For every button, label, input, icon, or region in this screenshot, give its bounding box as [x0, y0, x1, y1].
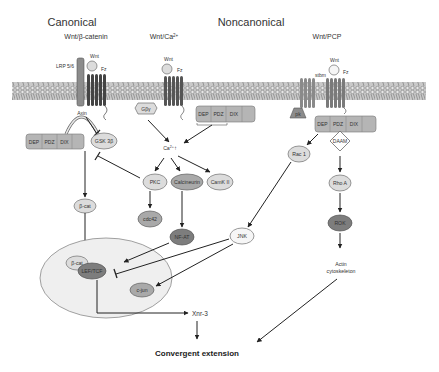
cdc42-label: cdc42: [143, 216, 157, 222]
axin-inhibits-gsk-edge: [86, 117, 97, 134]
jnk-label: JNK: [237, 233, 247, 239]
nfat-label: NF-AT: [175, 234, 191, 240]
wnt-label-ca: Wnt: [164, 56, 174, 62]
noncanonical-heading: Noncanonical: [218, 16, 285, 28]
dep-domain-label: DEP: [198, 111, 209, 117]
g-beta-gamma-label: Gβγ: [141, 106, 151, 112]
pdz-domain-label: PDZ: [214, 111, 224, 117]
wnt-signaling-diagram: Canonical Noncanonical Wnt/β-catenin Wnt…: [0, 0, 439, 372]
xnr3-label: Xnr-3: [192, 310, 208, 317]
dep-domain-label: DEP: [29, 139, 40, 145]
dishevelled-pcp: DEP PDZ DIX: [315, 116, 376, 132]
calcineurin-label: Calcineurin: [174, 179, 200, 185]
dvl-to-rac1-edge: [307, 134, 318, 145]
pathway-label-pcp: Wnt/PCP: [313, 33, 342, 40]
ca-to-camk2-edge: [178, 156, 210, 172]
pkc-label: PKC: [150, 179, 161, 185]
c-jun-label: c-jun: [136, 287, 147, 293]
pk-label: pk: [295, 111, 301, 117]
calcium-label: Ca2+↑: [163, 145, 177, 151]
fz-label-pcp: Fz: [343, 69, 349, 75]
dix-domain-label: DIX: [350, 121, 359, 127]
beta-catenin-nuclear-label: β-cat: [71, 260, 83, 266]
cell-membrane: [12, 82, 426, 100]
axin: Axin: [66, 110, 98, 134]
pathway-label-ca: Wnt/Ca2+: [150, 33, 179, 41]
rok-label: ROK: [334, 220, 346, 226]
ca-to-pkc-edge: [155, 158, 164, 171]
ca-receptor-complex: Wnt Fz: [162, 56, 184, 120]
dix-domain-label: DIX: [230, 111, 239, 117]
pkc-inhibits-gsk-edge: [98, 156, 140, 178]
wnt-ligand-ca: [162, 64, 172, 74]
dvl-to-ca-edge: [184, 125, 212, 143]
pdz-domain-label: PDZ: [45, 139, 55, 145]
daam-label: DAAM: [333, 138, 347, 144]
fz-label-ca: Fz: [177, 67, 183, 73]
pdz-domain-label: PDZ: [333, 121, 343, 127]
actin-to-ce-edge: [257, 279, 337, 342]
canonical-heading: Canonical: [48, 16, 97, 28]
stbm-label: stbm: [315, 72, 326, 78]
dishevelled-ca: DEP PDZ DIX: [196, 106, 255, 125]
rac1-label: Rac 1: [292, 151, 306, 157]
beta-catenin-label: β-cat: [79, 203, 91, 209]
wnt-ligand-pcp: [329, 65, 339, 75]
ca-to-calcineurin-edge: [171, 158, 180, 171]
lrp-label: LRP 5/6: [56, 63, 74, 69]
dishevelled-canonical: DEP PDZ DIX: [26, 134, 84, 149]
lef-tcf-label: LEF/TCF: [81, 268, 102, 274]
frizzled-receptor-pcp: [326, 78, 346, 114]
axin-label: Axin: [77, 110, 87, 116]
dep-domain-label: DEP: [317, 121, 328, 127]
frizzled-receptor-canonical: [87, 74, 107, 120]
gsk3b-label: GSK 3β: [95, 138, 113, 144]
actin-label-line1: Actin: [335, 261, 347, 267]
wnt-label-canonical: Wnt: [90, 53, 100, 59]
fz-label-canonical: Fz: [101, 66, 107, 72]
wnt-label-pcp: Wnt: [330, 57, 340, 63]
rac1-to-jnk-edge: [248, 162, 291, 227]
pathway-label-canonical: Wnt/β-catenin: [64, 33, 107, 41]
convergent-extension-label: Convergent extension: [155, 349, 239, 358]
camk2-label: CamK II: [211, 179, 230, 185]
dix-domain-label: DIX: [60, 139, 69, 145]
wnt-ligand-canonical: [87, 61, 97, 71]
lrp-receptor: [77, 58, 84, 106]
actin-label-line2: cytoskeleton: [327, 268, 356, 274]
rhoa-label: Rho A: [333, 180, 348, 186]
gby-to-ca-edge: [148, 120, 169, 142]
